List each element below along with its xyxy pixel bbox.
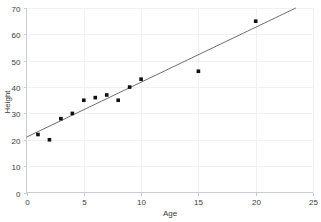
x-tick-label-5: 5 (82, 198, 87, 207)
data-point (128, 85, 132, 89)
y-tick-label-70: 70 (12, 5, 21, 14)
scatter-chart: 0510152025 010203040506070 Age Height (0, 0, 321, 222)
x-tick-label-0: 0 (25, 198, 30, 207)
y-tick-label-20: 20 (12, 137, 21, 146)
y-tick-label-40: 40 (12, 84, 21, 93)
data-point (254, 19, 258, 23)
data-point (59, 117, 63, 121)
data-point (93, 96, 97, 100)
x-tick-label-20: 20 (252, 198, 261, 207)
y-tick-label-10: 10 (12, 163, 21, 172)
data-point (71, 112, 75, 116)
x-tick-label-10: 10 (137, 198, 146, 207)
data-point (36, 133, 40, 137)
x-axis-title: Age (163, 209, 178, 218)
chart-background (0, 0, 321, 222)
x-tick-label-25: 25 (309, 198, 318, 207)
plot-area: 0510152025 010203040506070 Age Height (0, 0, 321, 222)
y-tick-label-0: 0 (16, 190, 21, 199)
y-tick-label-50: 50 (12, 58, 21, 67)
y-tick-label-60: 60 (12, 31, 21, 40)
y-tick-label-30: 30 (12, 110, 21, 119)
data-point (139, 77, 143, 81)
data-point (82, 98, 86, 102)
data-point (197, 69, 201, 73)
y-axis-title: Height (3, 90, 12, 114)
x-tick-label-15: 15 (194, 198, 203, 207)
data-point (105, 93, 109, 97)
data-point (116, 98, 120, 102)
data-point (48, 138, 52, 142)
